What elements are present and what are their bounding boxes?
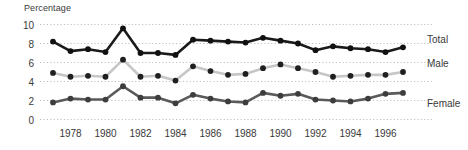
data-point [243, 40, 249, 46]
x-tick-label: 1980 [86, 128, 126, 139]
data-point [50, 100, 56, 106]
data-point [208, 38, 214, 44]
data-point [155, 73, 161, 79]
data-point [208, 96, 214, 102]
data-point [383, 91, 389, 97]
y-tick-label: 2 [16, 95, 34, 106]
data-point [260, 35, 266, 41]
data-point [243, 100, 249, 106]
data-point [103, 49, 109, 55]
data-point [138, 74, 144, 80]
data-point [68, 96, 74, 102]
data-point [120, 57, 126, 63]
data-point [225, 99, 231, 105]
data-point [68, 74, 74, 80]
x-tick-label: 1994 [331, 128, 371, 139]
y-tick-label: 0 [16, 114, 34, 125]
series-layer [50, 25, 406, 106]
data-point [260, 65, 266, 71]
data-point [400, 69, 406, 75]
data-point [278, 62, 284, 68]
x-tick-label: 1996 [366, 128, 406, 139]
data-point [103, 74, 109, 80]
x-tick-label: 1982 [121, 128, 161, 139]
data-point [260, 90, 266, 96]
legend-item-male: Male [427, 58, 449, 69]
legend-item-female: Female [427, 97, 460, 108]
data-point [68, 48, 74, 54]
legend-item-total: Total [427, 34, 448, 45]
data-point [295, 91, 301, 97]
data-point [103, 97, 109, 103]
data-point [190, 92, 196, 98]
data-point [155, 95, 161, 101]
data-point [383, 49, 389, 55]
data-point [365, 96, 371, 102]
data-point [173, 52, 179, 58]
data-point [190, 63, 196, 69]
y-tick-label: 8 [16, 38, 34, 49]
data-point [173, 78, 179, 84]
data-point [50, 70, 56, 76]
series-female [50, 83, 406, 106]
data-point [400, 90, 406, 96]
data-point [330, 43, 336, 49]
data-point [313, 47, 319, 53]
y-tick-label: 4 [16, 76, 34, 87]
data-point [313, 97, 319, 103]
x-tick-label: 1988 [226, 128, 266, 139]
x-tick-label: 1992 [296, 128, 336, 139]
data-point [330, 98, 336, 104]
data-point [365, 72, 371, 78]
data-point [383, 72, 389, 78]
line-chart: Percentage 0246810 197819801982198419861… [0, 0, 468, 150]
data-point [85, 97, 91, 103]
data-point [225, 39, 231, 45]
data-point [348, 45, 354, 51]
data-point [243, 71, 249, 77]
x-tick-label: 1986 [191, 128, 231, 139]
data-point [225, 72, 231, 78]
data-point [85, 46, 91, 52]
data-point [295, 41, 301, 47]
data-point [400, 44, 406, 50]
data-point [138, 95, 144, 101]
data-point [85, 73, 91, 79]
data-point [50, 39, 56, 45]
data-point [313, 69, 319, 75]
gridlines [40, 25, 432, 120]
y-tick-label: 10 [16, 19, 34, 30]
series-male [50, 57, 406, 84]
x-tick-label: 1984 [156, 128, 196, 139]
data-point [348, 99, 354, 105]
series-total [50, 25, 406, 57]
x-tick-label: 1978 [51, 128, 91, 139]
data-point [120, 83, 126, 89]
data-point [295, 65, 301, 71]
y-tick-label: 6 [16, 57, 34, 68]
data-point [330, 74, 336, 80]
data-point [278, 38, 284, 44]
data-point [365, 46, 371, 52]
data-point [155, 50, 161, 56]
data-point [208, 68, 214, 74]
data-point [120, 25, 126, 31]
data-point [278, 93, 284, 99]
data-point [348, 73, 354, 79]
data-point [173, 100, 179, 106]
data-point [138, 50, 144, 56]
data-point [190, 37, 196, 43]
x-tick-label: 1990 [261, 128, 301, 139]
